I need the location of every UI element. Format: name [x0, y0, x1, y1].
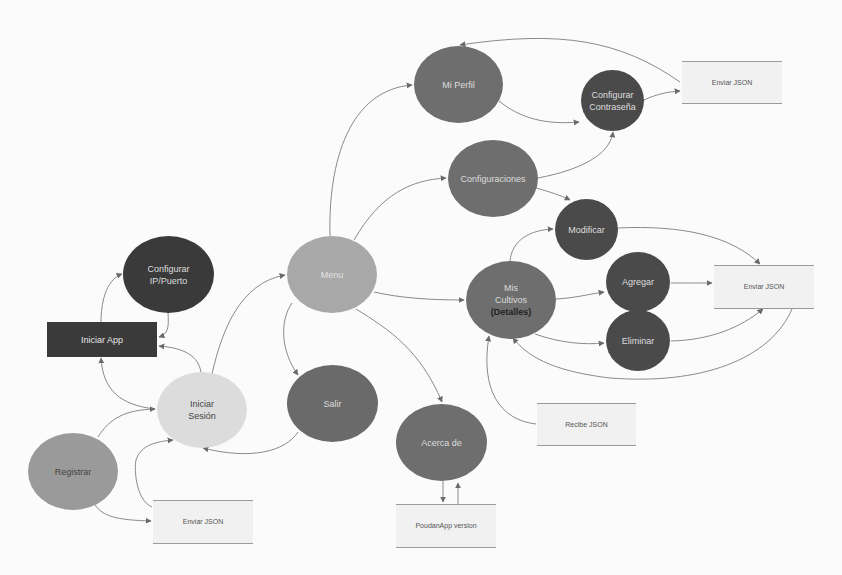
- edge-mis_cultivos-to-eliminar: [535, 334, 604, 344]
- node-label: Enviar JSON: [744, 283, 784, 290]
- node-label: Registrar: [55, 467, 92, 477]
- node-label: Configurar Contraseña: [589, 90, 636, 112]
- node-label: Iniciar App: [81, 335, 123, 345]
- node-enviar-json-bottom: Enviar JSON: [153, 500, 253, 544]
- node-configurar-contrasena: Configurar Contraseña: [581, 70, 644, 131]
- edge-configuraciones-to-configurar_contrasena: [538, 132, 613, 178]
- node-label: Salir: [323, 399, 341, 409]
- edge-mi_perfil-to-configurar_contrasena: [499, 101, 579, 123]
- node-enviar-json-top: Enviar JSON: [682, 61, 782, 104]
- node-label: Mi Perfil: [442, 80, 475, 90]
- node-label: Menu: [321, 270, 344, 280]
- node-label: Enviar JSON: [183, 518, 223, 525]
- node-mi-perfil: Mi Perfil: [414, 46, 503, 123]
- node-poudan-version: PoudanApp version: [396, 504, 496, 548]
- node-label: Enviar JSON: [712, 79, 752, 86]
- node-salir: Salir: [287, 365, 378, 442]
- edge-eliminar-to-enviar_json_right: [671, 309, 763, 341]
- node-recibe-json: Recibe JSON: [537, 403, 636, 446]
- edge-configurar_ip-to-iniciar_app: [159, 313, 168, 337]
- node-menu: Menu: [287, 236, 377, 313]
- edge-enviar_json_bottom-to-iniciar_sesion: [135, 440, 173, 507]
- edge-mis_cultivos-to-agregar: [556, 292, 604, 299]
- node-label: Iniciar Sesión: [188, 399, 216, 421]
- edge-iniciar_sesion-to-menu: [212, 275, 285, 374]
- node-enviar-json-right: Enviar JSON: [714, 265, 814, 309]
- edge-mis_cultivos-to-modificar: [510, 229, 553, 261]
- edge-registrar-to-iniciar_sesion: [98, 409, 155, 437]
- node-acerca-de: Acerca de: [396, 404, 487, 481]
- node-agregar: Agregar: [606, 252, 670, 312]
- edge-configuraciones-to-modificar: [536, 188, 570, 200]
- edge-registrar-to-enviar_json_bottom: [95, 505, 151, 521]
- edge-iniciar_sesion-to-iniciar_app: [101, 358, 155, 409]
- node-label: Agregar: [622, 277, 654, 287]
- node-label: Eliminar: [622, 336, 655, 346]
- node-registrar: Registrar: [28, 433, 118, 510]
- node-eliminar: Eliminar: [606, 310, 670, 371]
- edge-configurar_contrasena-to-enviar_json_top: [644, 91, 680, 100]
- node-iniciar-app: Iniciar App: [47, 322, 157, 357]
- edge-menu-to-configuraciones: [354, 178, 446, 240]
- node-label: Configurar IP/Puerto: [147, 264, 189, 286]
- edge-menu-to-salir: [284, 303, 298, 375]
- edge-iniciar_app-to-configurar_ip: [101, 274, 122, 322]
- node-label: Recibe JSON: [565, 421, 607, 428]
- node-configurar-ip: Configurar IP/Puerto: [123, 236, 214, 313]
- node-mis-cultivos: Mis Cultivos(Detalles): [466, 261, 556, 339]
- node-label: Acerca de: [421, 438, 462, 448]
- node-label: Configuraciones: [460, 174, 525, 184]
- node-label: Mis Cultivos: [495, 283, 527, 305]
- edge-menu-to-mi_perfil: [330, 85, 412, 236]
- node-configuraciones: Configuraciones: [448, 140, 538, 217]
- node-sublabel: (Detalles): [491, 306, 532, 318]
- node-iniciar-sesion: Iniciar Sesión: [157, 372, 247, 448]
- node-label: PoudanApp version: [415, 522, 476, 529]
- edge-iniciar_sesion-to-iniciar_app: [159, 346, 201, 372]
- node-label: Modificar: [568, 225, 605, 235]
- edge-mis_cultivos_store-to-mis_cultivos: [487, 336, 536, 424]
- node-modificar: Modificar: [555, 199, 618, 260]
- edge-menu-to-mis_cultivos: [374, 292, 464, 300]
